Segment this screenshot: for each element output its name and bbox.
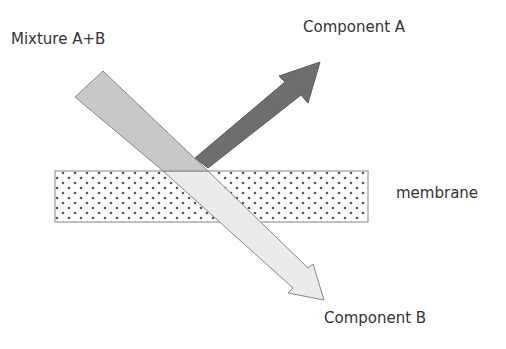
component-a-arrow [195,62,320,168]
component-b-label: Component B [324,309,426,327]
component-a-label: Component A [303,18,405,36]
mixture-arrow [75,71,208,171]
mixture-label: Mixture A+B [11,30,105,48]
membrane-label: membrane [396,184,478,202]
separation-diagram [0,0,506,349]
